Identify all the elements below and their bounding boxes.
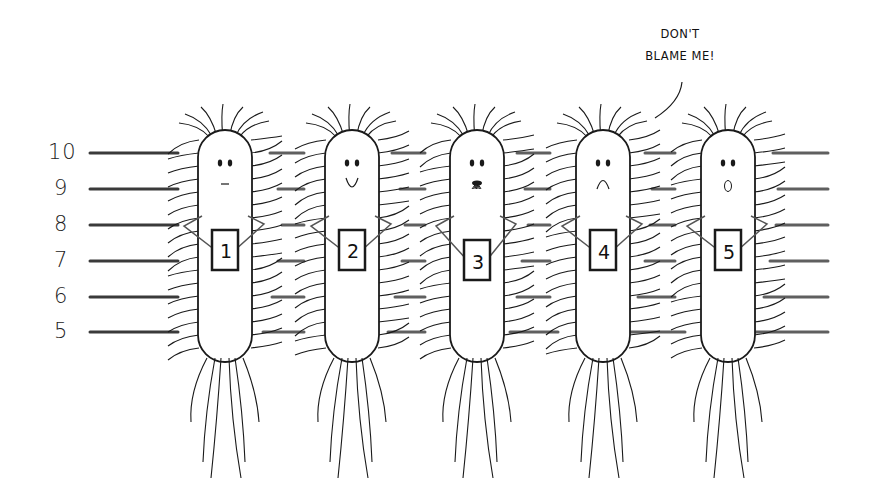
cilium-right xyxy=(378,318,409,322)
cilium-left xyxy=(295,309,326,322)
cilium-left xyxy=(671,257,702,269)
cilium-left xyxy=(168,205,199,215)
cilium-left xyxy=(671,348,702,358)
cilium-top xyxy=(682,123,712,137)
cilium-right xyxy=(503,271,534,283)
cilium-left xyxy=(168,335,199,346)
cilium-left xyxy=(546,309,577,321)
flagellum xyxy=(338,358,348,478)
cilium-left xyxy=(671,244,702,255)
flagellum xyxy=(229,358,241,478)
cilium-right xyxy=(503,196,534,205)
cilium-left xyxy=(671,309,702,316)
flagellum xyxy=(243,358,259,422)
flagellum xyxy=(694,358,710,422)
cilium-right xyxy=(503,341,534,348)
cilium-right xyxy=(754,162,785,166)
scale-label-6: 6 xyxy=(54,284,68,308)
cilium-right xyxy=(378,262,409,270)
cilium-right xyxy=(754,265,785,270)
flagellum xyxy=(581,358,593,462)
cilium-right xyxy=(754,284,785,296)
cilium-left xyxy=(546,283,577,293)
cilium-right xyxy=(754,134,785,140)
cilium-right xyxy=(754,195,785,205)
cilium-right xyxy=(378,173,409,179)
cilium-left xyxy=(671,192,702,199)
cilium-left xyxy=(420,309,451,317)
cilium-left xyxy=(420,322,451,331)
cilium-right xyxy=(378,248,409,257)
cilium-left xyxy=(671,283,702,297)
bacteria-lineup-illustration: 10 9 8 7 6 5 DON'T BLAME ME! 1 2 3 4 5 xyxy=(0,0,872,487)
cilium-right xyxy=(251,211,282,218)
speech-line-1: DON'T xyxy=(630,23,730,45)
flagellum xyxy=(746,358,762,422)
cilium-right xyxy=(754,237,785,244)
organism-5 xyxy=(671,104,785,478)
speech-bubble-text: DON'T BLAME ME! xyxy=(630,23,730,67)
scale-label-7: 7 xyxy=(54,248,68,272)
cilium-left xyxy=(168,244,199,257)
cilium-left xyxy=(168,192,199,201)
eye-right xyxy=(480,160,484,167)
cilium-left xyxy=(168,270,199,276)
cilium-left xyxy=(420,283,451,289)
cilium-left xyxy=(168,309,199,318)
badge-number-5: 5 xyxy=(717,241,741,263)
cilium-left xyxy=(546,244,577,251)
organism-2 xyxy=(295,104,409,478)
cilium-right xyxy=(629,158,660,166)
flagellum xyxy=(356,358,368,478)
eye-left xyxy=(345,160,349,167)
cilium-left xyxy=(671,231,702,241)
organism-4 xyxy=(546,104,660,478)
cilium-right xyxy=(251,300,282,309)
cilium-left xyxy=(420,205,451,214)
cilium-left xyxy=(671,322,702,330)
cilium-right xyxy=(629,336,660,348)
flagellum xyxy=(732,358,744,478)
mustache-base xyxy=(472,181,482,186)
eye-right xyxy=(731,160,735,167)
cilium-right xyxy=(378,159,409,166)
scale-label-10: 10 xyxy=(48,140,77,164)
cilium-right xyxy=(629,317,660,322)
cilium-left xyxy=(295,348,326,355)
cilium-right xyxy=(629,233,660,244)
flagellum xyxy=(318,358,334,422)
cilium-right xyxy=(251,314,282,322)
cilium-right xyxy=(251,239,282,244)
cilium-left xyxy=(671,140,702,152)
flagellum xyxy=(443,358,459,422)
cilium-right xyxy=(251,141,282,153)
cilium-left xyxy=(420,270,451,284)
flagellum xyxy=(481,358,493,478)
cilium-left xyxy=(168,257,199,271)
cilium-right xyxy=(251,225,282,231)
flagellum xyxy=(495,358,511,422)
cilium-right xyxy=(251,253,282,257)
scale-label-5: 5 xyxy=(54,319,68,343)
cilium-right xyxy=(629,303,660,309)
flagellum xyxy=(203,358,215,462)
cilium-left xyxy=(295,283,326,294)
cilium-right xyxy=(251,342,282,348)
cilium-right xyxy=(503,168,534,179)
cilium-left xyxy=(168,166,199,173)
badge-number-2: 2 xyxy=(341,240,365,262)
cilium-left xyxy=(420,192,451,200)
cilium-right xyxy=(503,154,534,166)
flagellum xyxy=(621,358,637,422)
cilium-left xyxy=(295,335,326,341)
illustration-canvas xyxy=(0,0,872,487)
cilium-right xyxy=(629,130,660,140)
eye-left xyxy=(596,160,600,167)
flagellum xyxy=(607,358,619,478)
cilium-right xyxy=(503,285,534,296)
cilium-right xyxy=(629,200,660,205)
cilium-right xyxy=(251,183,282,192)
cilium-left xyxy=(295,244,326,252)
cilium-right xyxy=(754,251,785,257)
cilium-left xyxy=(671,270,702,283)
